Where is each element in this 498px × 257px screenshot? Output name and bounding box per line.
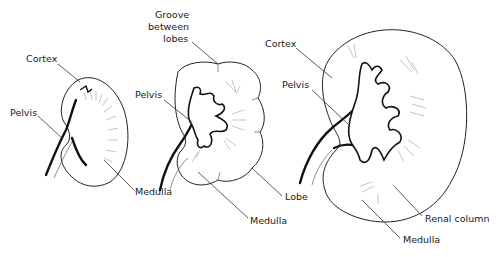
renal-column-label: Renal column [425, 213, 490, 224]
fetal-kidney [46, 78, 128, 187]
groove-label-line1: Groove [155, 9, 189, 20]
lobulated-kidney [160, 62, 264, 190]
fetal-medulla-label: Medulla [135, 186, 172, 197]
adult-kidney [300, 30, 467, 222]
lobulated-pelvis-label: Pelvis [135, 89, 162, 100]
adult-pelvis-label: Pelvis [282, 79, 309, 90]
kidney-diagram: Cortex Pelvis Medulla Groove between lob… [0, 0, 498, 257]
lobe-label: Lobe [285, 191, 308, 202]
lobulated-medulla-label: Medulla [250, 215, 287, 226]
fetal-pelvis-label: Pelvis [10, 107, 37, 118]
fetal-cortex-label: Cortex [26, 53, 58, 64]
adult-cortex-label: Cortex [265, 38, 297, 49]
groove-label-line3: lobes [163, 33, 188, 44]
groove-label-line2: between [148, 21, 189, 32]
adult-medulla-label: Medulla [403, 234, 440, 245]
